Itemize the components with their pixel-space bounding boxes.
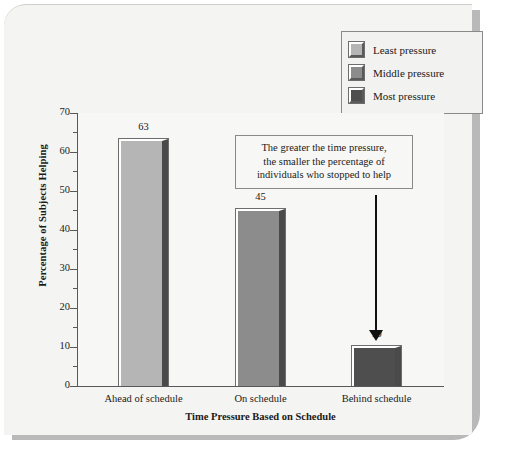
bar-behind-schedule[interactable] — [352, 346, 401, 386]
y-tick-minor-35 — [73, 249, 77, 250]
legend-item-least-pressure[interactable]: Least pressure — [349, 38, 474, 61]
annotation-box: The greater the time pressure, the small… — [235, 135, 413, 189]
y-tick-label-20: 20 — [44, 301, 70, 312]
y-tick-minor-55 — [73, 171, 77, 172]
y-tick-label-0: 0 — [44, 379, 70, 390]
y-tick-major-50 — [70, 191, 77, 192]
y-tick-label-60: 60 — [44, 145, 70, 156]
legend-swatch-most-pressure — [349, 88, 364, 103]
y-tick-major-10 — [70, 347, 77, 348]
y-tick-label-10: 10 — [44, 340, 70, 351]
y-tick-label-70: 70 — [44, 106, 70, 117]
y-tick-label-50: 50 — [44, 184, 70, 195]
y-tick-major-40 — [70, 230, 77, 231]
legend-swatch-least-pressure — [349, 42, 364, 57]
y-tick-minor-45 — [73, 210, 77, 211]
legend-label-least-pressure: Least pressure — [373, 44, 436, 56]
x-tick-label-on-schedule: On schedule — [200, 393, 321, 404]
legend-swatch-middle-pressure — [349, 65, 364, 80]
annotation-arrow-head-icon — [369, 330, 383, 341]
x-tick-label-ahead-of-schedule: Ahead of schedule — [83, 393, 204, 404]
y-tick-major-0 — [70, 386, 77, 387]
bar-on-schedule[interactable] — [236, 209, 285, 386]
legend-label-middle-pressure: Middle pressure — [373, 67, 444, 79]
x-axis-title: Time Pressure Based on Schedule — [77, 411, 444, 422]
annotation-arrow-shaft — [375, 195, 377, 332]
x-tick-label-behind-schedule: Behind schedule — [316, 393, 437, 404]
legend-item-middle-pressure[interactable]: Middle pressure — [349, 61, 474, 84]
y-tick-label-40: 40 — [44, 223, 70, 234]
y-tick-major-20 — [70, 308, 77, 309]
chart-legend: Least pressure Middle pressure Most pres… — [341, 31, 483, 114]
y-axis-line — [77, 113, 78, 387]
y-axis-title: Percentage of Subjects Helping — [37, 116, 48, 316]
figure-card: Least pressure Middle pressure Most pres… — [4, 4, 472, 435]
y-tick-minor-25 — [73, 288, 77, 289]
x-axis-line — [77, 386, 444, 387]
legend-item-most-pressure[interactable]: Most pressure — [349, 84, 474, 107]
y-tick-major-60 — [70, 152, 77, 153]
figure-root: Least pressure Middle pressure Most pres… — [0, 0, 520, 449]
bar-value-on-schedule: 45 — [235, 191, 286, 202]
bar-value-ahead-of-schedule: 63 — [118, 121, 169, 132]
annotation-line-2: the smaller the percentage of — [242, 155, 406, 169]
annotation-line-3: individuals who stopped to help — [242, 168, 406, 182]
y-tick-minor-65 — [73, 132, 77, 133]
bar-ahead-of-schedule[interactable] — [119, 139, 168, 386]
legend-label-most-pressure: Most pressure — [373, 90, 435, 102]
y-tick-label-30: 30 — [44, 262, 70, 273]
y-tick-major-30 — [70, 269, 77, 270]
y-tick-minor-15 — [73, 327, 77, 328]
annotation-line-1: The greater the time pressure, — [242, 141, 406, 155]
y-tick-major-70 — [70, 113, 77, 114]
y-tick-minor-5 — [73, 366, 77, 367]
